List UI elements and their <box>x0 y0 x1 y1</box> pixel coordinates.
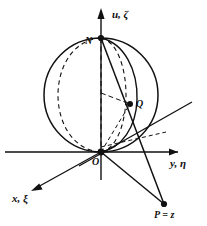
point-marker-o <box>98 149 105 156</box>
axis-label-y-eta: y, η <box>170 158 186 169</box>
point-marker-n <box>98 35 104 41</box>
meridian-ellipse-dashed-left <box>58 38 101 152</box>
point-marker-p <box>161 201 167 207</box>
point-label-q: Q <box>136 99 143 109</box>
axis-y-eta-arrowhead <box>169 149 178 156</box>
axis-y-eta <box>5 149 178 156</box>
point-label-o: O <box>92 157 99 167</box>
point-marker-q <box>127 101 133 107</box>
axis-u-zeta-arrowhead <box>97 8 104 19</box>
axis-x-xi <box>31 152 101 191</box>
figure-canvas <box>0 0 207 226</box>
axis-label-u-zeta: u, ζ <box>112 9 128 20</box>
guide-line-dashed-right <box>101 132 166 147</box>
projection-ray-n-to-p <box>101 38 164 204</box>
point-label-p: P = z <box>154 210 174 220</box>
point-label-n: N <box>85 36 92 46</box>
stereographic-projection-figure: u, ζ y, η x, ξ N O Q P = z <box>0 0 207 226</box>
axis-label-x-xi: x, ξ <box>12 193 28 204</box>
